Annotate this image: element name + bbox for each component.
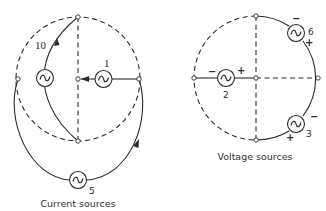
source-6-plus: + <box>305 37 313 48</box>
node-circle-icon <box>254 14 258 18</box>
node-circle-icon <box>16 77 20 81</box>
node-circle-icon <box>137 77 141 81</box>
ac-source-icon <box>70 172 87 189</box>
source-2-plus: + <box>237 65 245 76</box>
node-circle-icon <box>254 138 258 142</box>
ac-source-icon <box>95 71 112 88</box>
node-circle-icon <box>192 76 196 80</box>
source-3-minus: − <box>310 111 318 122</box>
source-2-label: 2 <box>223 90 229 100</box>
source-3-label: 3 <box>306 129 312 139</box>
ac-source-icon <box>288 116 305 133</box>
ac-source-icon <box>288 25 305 42</box>
solid-arc-top <box>256 16 289 26</box>
node-circle-icon <box>254 76 258 80</box>
source-10-label: 10 <box>35 39 47 51</box>
arrow-left-icon <box>81 76 89 82</box>
circuit-figure: 10 1 5 Current sources <box>0 0 326 211</box>
current-sources-panel: 10 1 5 Current sources <box>14 15 143 209</box>
node-circle-icon <box>76 139 80 143</box>
source-1-label: 1 <box>104 57 110 69</box>
ac-source-icon <box>37 70 54 87</box>
source-2-minus: − <box>208 66 216 77</box>
source-6-minus: − <box>292 13 300 24</box>
current-sources-caption: Current sources <box>40 198 115 209</box>
source-5-branch-right <box>86 79 143 180</box>
source-5-branch-left <box>14 79 70 180</box>
node-circle-icon <box>316 76 320 80</box>
voltage-sources-panel: − + 2 − + 6 − + 3 Voltage sources <box>192 13 320 162</box>
node-circle-icon <box>76 15 80 19</box>
source-6-label: 6 <box>308 27 314 37</box>
source-3-plus: + <box>286 132 294 143</box>
source-5-label: 5 <box>89 186 95 196</box>
ac-source-icon <box>218 70 235 87</box>
voltage-sources-caption: Voltage sources <box>217 151 292 162</box>
solid-arc-bottom <box>256 131 289 140</box>
node-circle-icon <box>76 77 80 81</box>
